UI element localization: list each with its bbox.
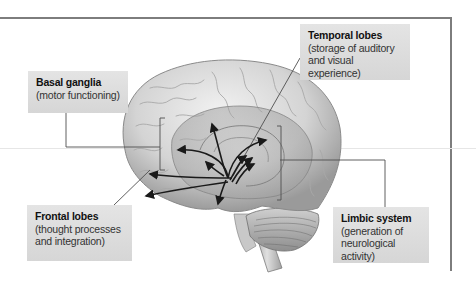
label-title: Frontal lobes — [35, 210, 124, 223]
label-description-line-1: (thought processes — [35, 223, 124, 236]
label-description-line-2: and integration) — [35, 235, 124, 248]
label-description-line-1: (generation of — [341, 225, 421, 238]
label-frontal-lobes: Frontal lobes (thought processes and int… — [27, 205, 132, 261]
label-description-line-2: and visual experience) — [308, 54, 402, 79]
label-description-line-1: (storage of auditory — [308, 42, 402, 55]
label-basal-ganglia: Basal ganglia (motor functioning) — [28, 71, 128, 113]
cerebrum — [123, 60, 341, 212]
label-temporal-lobes: Temporal lobes (storage of auditory and … — [300, 24, 410, 80]
label-title: Temporal lobes — [308, 29, 402, 42]
label-title: Limbic system — [341, 212, 421, 225]
brain-diagram: Basal ganglia (motor functioning) Tempor… — [0, 0, 476, 284]
label-description: (motor functioning) — [36, 89, 120, 102]
label-description-line-2: neurological activity) — [341, 237, 421, 262]
label-limbic-system: Limbic system (generation of neurologica… — [333, 207, 429, 263]
label-title: Basal ganglia — [36, 76, 120, 89]
cerebellum — [246, 208, 319, 251]
